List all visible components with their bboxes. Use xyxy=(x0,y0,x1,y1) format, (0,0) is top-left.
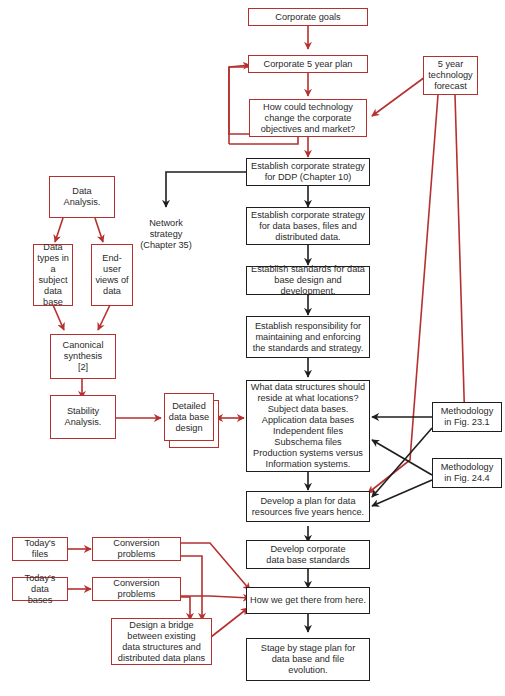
node-end-user-views: End-user views of data xyxy=(91,244,133,306)
node-todays-databases: Today's data bases xyxy=(12,577,68,601)
node-plan-five-years: Develop a plan for data resources five y… xyxy=(246,491,370,522)
node-canonical-synthesis: Canonical synthesis [2] xyxy=(50,334,116,379)
node-technology-change-question: How could technology change the corporat… xyxy=(249,99,367,137)
node-corporate-five-year-plan: Corporate 5 year plan xyxy=(248,55,368,73)
node-data-analysis: Data Analysis. xyxy=(49,176,115,218)
node-corporate-goals: Corporate goals xyxy=(248,8,368,26)
node-corporate-standards: Develop corporate data base standards xyxy=(246,540,370,569)
node-stage-plan: Stage by stage plan for data base and fi… xyxy=(246,638,370,681)
node-get-there: How we get there from here. xyxy=(246,587,370,614)
node-conversion-problems-files: Conversion problems xyxy=(92,537,181,561)
node-data-types: Data types in a subject data base xyxy=(33,244,73,306)
flowchart-canvas: Corporate goals Corporate 5 year plan Ho… xyxy=(0,0,505,696)
node-responsibility: Establish responsibility for maintaining… xyxy=(246,316,370,358)
node-data-structures: What data structures should reside at wh… xyxy=(246,380,370,472)
node-technology-forecast: 5 year technology forecast xyxy=(423,56,478,95)
node-conversion-problems-databases: Conversion problems xyxy=(92,577,181,601)
node-stability-analysis: Stability Analysis. xyxy=(50,395,116,439)
node-methodology-23-1: Methodology in Fig. 23.1 xyxy=(432,402,502,432)
node-strategy-ddp: Establish corporate strategy for DDP (Ch… xyxy=(246,158,370,186)
node-standards-design: Establish standards for data base design… xyxy=(246,266,370,295)
node-methodology-24-4: Methodology in Fig. 24.4 xyxy=(432,458,502,488)
node-detailed-design: Detailed data base design xyxy=(164,393,214,441)
node-strategy-databases: Establish corporate strategy for data ba… xyxy=(246,207,370,245)
node-design-bridge: Design a bridge between existing data st… xyxy=(111,618,212,665)
node-network-strategy: Network strategy (Chapter 35) xyxy=(130,218,202,251)
node-todays-files: Today's files xyxy=(12,537,68,561)
